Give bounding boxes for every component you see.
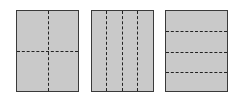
panel-horizontal-strips bbox=[165, 10, 228, 92]
fold-line-vertical bbox=[106, 11, 107, 91]
fold-line-vertical bbox=[122, 11, 123, 91]
fold-line-vertical bbox=[137, 11, 138, 91]
fold-line-horizontal bbox=[166, 52, 227, 53]
fold-line-horizontal bbox=[166, 72, 227, 73]
panel-quarters bbox=[16, 10, 79, 92]
fold-line-horizontal bbox=[166, 31, 227, 32]
panel-vertical-strips bbox=[91, 10, 154, 92]
fold-line-horizontal bbox=[17, 51, 78, 52]
